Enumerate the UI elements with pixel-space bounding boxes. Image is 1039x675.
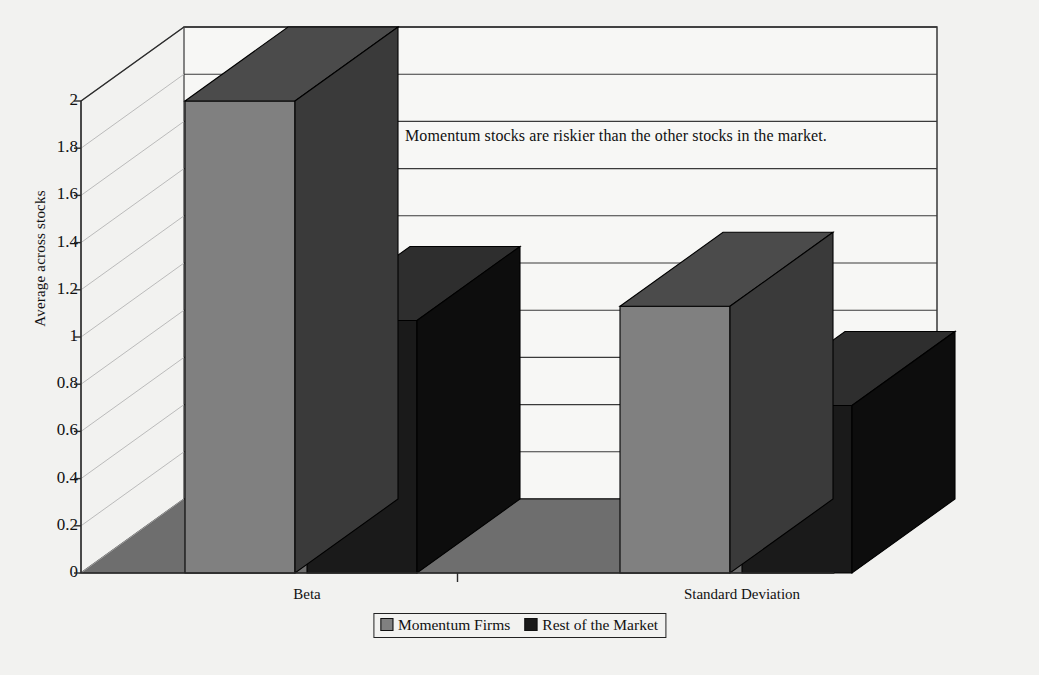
- legend-item: Rest of the Market: [524, 617, 658, 633]
- legend-item: Momentum Firms: [380, 617, 510, 633]
- chart-figure: 00.20.40.60.811.21.41.61.82 Average acro…: [0, 0, 1039, 675]
- chart-legend: Momentum FirmsRest of the Market: [373, 613, 666, 638]
- legend-label: Momentum Firms: [398, 617, 510, 633]
- chart-annotation: Momentum stocks are riskier than the oth…: [405, 127, 827, 145]
- x-axis-tick-label: Standard Deviation: [684, 586, 800, 603]
- legend-swatch-icon: [380, 618, 393, 631]
- legend-swatch-icon: [524, 618, 537, 631]
- x-axis-tick-label: Beta: [293, 586, 321, 603]
- chart-canvas: [0, 0, 1039, 675]
- legend-label: Rest of the Market: [542, 617, 658, 633]
